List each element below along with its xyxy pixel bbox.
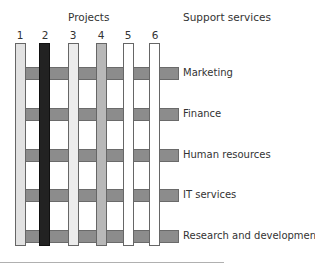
project-number-2: 2 bbox=[39, 29, 51, 41]
project-bar-1 bbox=[15, 43, 26, 246]
project-bar-3 bbox=[68, 43, 79, 246]
project-bar-4 bbox=[96, 43, 107, 246]
service-label-research-development: Research and development bbox=[183, 230, 315, 241]
bottom-divider bbox=[0, 262, 224, 263]
project-number-1: 1 bbox=[14, 29, 26, 41]
support-services-heading: Support services bbox=[183, 11, 271, 23]
project-number-6: 6 bbox=[149, 29, 161, 41]
project-number-3: 3 bbox=[67, 29, 79, 41]
service-label-it-services: IT services bbox=[183, 189, 236, 200]
projects-heading: Projects bbox=[68, 11, 109, 23]
project-bar-6 bbox=[149, 43, 160, 246]
project-bar-5 bbox=[123, 43, 134, 246]
project-number-5: 5 bbox=[122, 29, 134, 41]
service-label-marketing: Marketing bbox=[183, 67, 233, 78]
project-number-4: 4 bbox=[95, 29, 107, 41]
project-bar-2 bbox=[39, 43, 50, 246]
service-label-finance: Finance bbox=[183, 108, 221, 119]
service-label-human-resources: Human resources bbox=[183, 149, 271, 160]
